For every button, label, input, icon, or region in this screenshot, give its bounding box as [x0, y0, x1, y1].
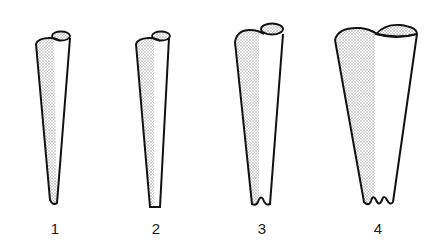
shape-label-1: 1: [51, 220, 59, 237]
shape-label-4: 4: [374, 220, 382, 237]
shape-2: [136, 32, 170, 208]
diagram-canvas: [0, 0, 438, 249]
shape-label-3: 3: [258, 220, 266, 237]
shape-4: [335, 25, 417, 204]
shape-label-2: 2: [152, 220, 160, 237]
shape-3: [235, 24, 283, 205]
shape-1: [36, 32, 70, 205]
